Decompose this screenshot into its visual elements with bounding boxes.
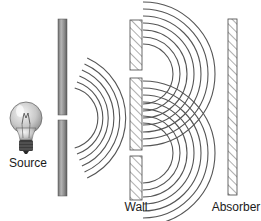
diagram-canvas: [0, 0, 261, 221]
wall: [130, 20, 142, 200]
source-label: Source: [9, 156, 47, 170]
wavefronts-single-slit: [75, 58, 126, 178]
absorber: [228, 19, 237, 195]
wall-label: Wall: [125, 200, 148, 214]
double-slit-diagram: Source Wall Absorber: [0, 0, 261, 221]
first-barrier: [58, 19, 67, 196]
light-bulb-icon: [10, 102, 42, 154]
absorber-label: Absorber: [212, 200, 261, 214]
